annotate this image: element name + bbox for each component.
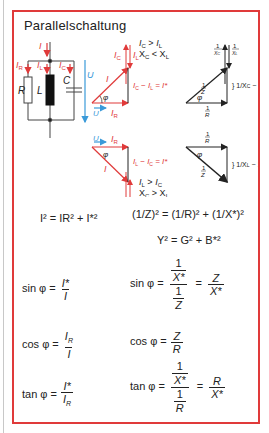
label-R: R bbox=[18, 85, 25, 96]
svg-text:IR: IR bbox=[111, 108, 119, 119]
svg-text:φ: φ bbox=[103, 150, 108, 159]
svg-text:IC: IC bbox=[59, 60, 67, 71]
formula-sin-current: sin φ = I*I bbox=[22, 277, 72, 302]
admittance-inductive: 1R φ 1Z } 1/XL − 1/XC = 1/X* bbox=[186, 131, 258, 182]
condition-ind-2: XC > XL bbox=[139, 188, 170, 197]
condition-ind-1: IL > IC bbox=[139, 177, 163, 188]
svg-text:1: 1 bbox=[216, 43, 220, 49]
svg-text:R: R bbox=[205, 138, 210, 144]
svg-text:XL: XL bbox=[231, 50, 238, 56]
formula-current-pythagoras: I² = IR² + I*² bbox=[40, 212, 97, 224]
svg-text:IL − IC = I*: IL − IC = I* bbox=[133, 157, 168, 167]
svg-text:} 1/XC − 1/XL = 1/X*: } 1/XC − 1/XL = 1/X* bbox=[232, 82, 258, 90]
svg-text:Z: Z bbox=[200, 172, 205, 178]
svg-text:φ: φ bbox=[103, 93, 108, 102]
label-L: L bbox=[37, 85, 43, 96]
svg-text:1: 1 bbox=[202, 165, 206, 171]
svg-text:φ: φ bbox=[197, 93, 202, 102]
svg-text:IC: IC bbox=[114, 50, 122, 61]
formula-admittance-gb: Y² = G² + B*² bbox=[157, 234, 221, 246]
svg-text:1: 1 bbox=[206, 105, 210, 111]
svg-text:U: U bbox=[93, 134, 99, 143]
svg-text:R: R bbox=[205, 112, 210, 118]
page-margin-rule bbox=[3, 0, 4, 433]
svg-text:1: 1 bbox=[206, 131, 210, 137]
circuit-diagram bbox=[24, 42, 82, 138]
svg-text:IR: IR bbox=[111, 134, 119, 145]
condition-cap-2: XC < XL bbox=[139, 49, 170, 60]
svg-text:1: 1 bbox=[233, 43, 237, 49]
admittance-capacitive: 1Z φ 1R 1XC 1XL } 1/XC − 1/XL = 1/X* bbox=[186, 43, 258, 118]
parallel-circuit-panel: Parallelschaltung I bbox=[12, 10, 260, 424]
formula-cos-admittance: cos φ = ZR bbox=[130, 330, 184, 355]
formula-admittance-pythagoras: (1/Z)² = (1/R)² + (1/X*)² bbox=[132, 208, 244, 220]
label-C: C bbox=[63, 75, 71, 86]
svg-text:IL: IL bbox=[37, 60, 44, 71]
formula-tan-current: tan φ = I*IR bbox=[22, 380, 74, 410]
condition-cap-1: IC > IL bbox=[139, 38, 163, 49]
circuit-labels: I IR IL IC bbox=[16, 41, 67, 71]
svg-text:IR: IR bbox=[16, 60, 24, 71]
svg-text:I: I bbox=[106, 74, 109, 84]
formula-tan-admittance: tan φ = 1X*1R = RX* bbox=[130, 360, 226, 415]
formula-cos-current: cos φ = IRI bbox=[22, 330, 76, 360]
svg-text:IC − IL = I*: IC − IL = I* bbox=[133, 81, 168, 91]
svg-text:U: U bbox=[93, 109, 99, 118]
svg-text:} 1/XL − 1/XC = 1/X*: } 1/XL − 1/XC = 1/X* bbox=[232, 161, 258, 169]
svg-text:I: I bbox=[39, 41, 42, 51]
formula-sin-admittance: sin φ = 1X*1Z = ZX* bbox=[130, 257, 225, 312]
svg-text:XC: XC bbox=[213, 50, 220, 56]
svg-text:φ: φ bbox=[197, 150, 202, 159]
svg-text:I: I bbox=[104, 164, 107, 174]
svg-text:U: U bbox=[87, 70, 94, 80]
diagrams: I IR IL IC R L C U IC IL I φ U IR bbox=[14, 12, 258, 197]
